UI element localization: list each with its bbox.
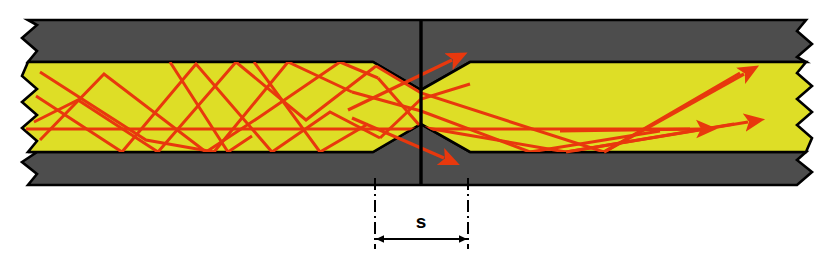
output-ray-axial <box>560 129 700 131</box>
fiber-splice-diagram: s <box>0 0 840 264</box>
figure-canvas: s <box>0 0 840 264</box>
dimension-label-s: s <box>416 211 427 232</box>
